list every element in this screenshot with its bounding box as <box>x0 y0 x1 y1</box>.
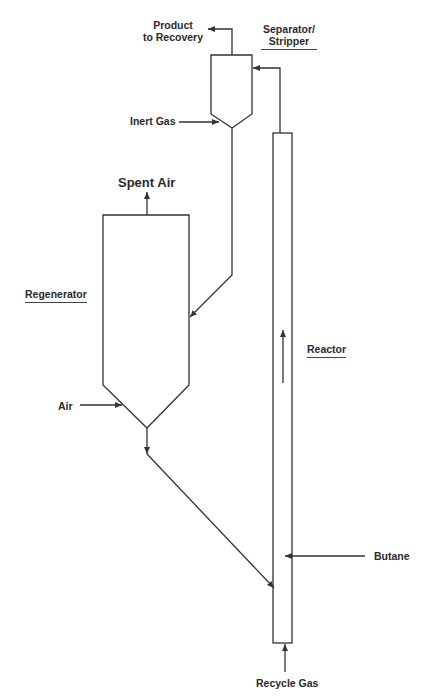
regenerator-vessel <box>103 215 189 428</box>
separator-label-line1: Separator/ <box>261 23 317 35</box>
separator-downcomer-line <box>190 128 232 317</box>
product-outlet-line <box>208 29 232 55</box>
butane-label: Butane <box>374 550 410 562</box>
regenerator-label: Regenerator <box>25 288 87 303</box>
separator-label: Separator/ Stripper <box>261 23 317 50</box>
process-flow-diagram <box>0 0 431 699</box>
separator-vessel <box>211 55 252 128</box>
reactor-vessel <box>273 133 292 643</box>
product-label-line1: Product <box>142 19 204 31</box>
riser-to-separator-line <box>253 68 280 133</box>
air-label: Air <box>58 400 73 412</box>
product-label: Product to Recovery <box>142 19 204 43</box>
inert-gas-label: Inert Gas <box>130 115 176 127</box>
spent-air-label: Spent Air <box>118 175 175 190</box>
product-label-line2: to Recovery <box>142 31 204 43</box>
separator-label-line2: Stripper <box>261 35 317 47</box>
regenerator-to-reactor-line <box>147 454 274 588</box>
reactor-label: Reactor <box>307 343 346 358</box>
recycle-gas-label: Recycle Gas <box>256 677 318 689</box>
